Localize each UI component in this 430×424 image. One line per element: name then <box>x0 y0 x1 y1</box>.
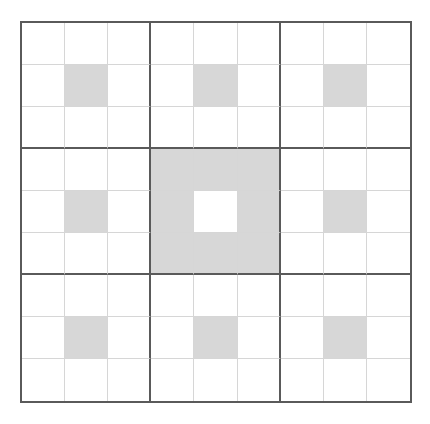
shaded-cell <box>151 191 194 233</box>
grid-cell <box>65 107 108 149</box>
shaded-cell <box>238 233 281 275</box>
grid-cell <box>367 317 410 359</box>
grid-cell <box>281 359 324 401</box>
grid-cell <box>108 233 151 275</box>
grid-cell <box>324 359 367 401</box>
grid-cell <box>22 275 65 317</box>
shaded-cell <box>194 65 237 107</box>
grid-cell <box>108 191 151 233</box>
grid-cell <box>281 275 324 317</box>
grid-cell <box>367 149 410 191</box>
grid-cell <box>194 107 237 149</box>
grid-cell <box>238 317 281 359</box>
grid-cell <box>22 149 65 191</box>
grid-cell <box>108 359 151 401</box>
shaded-cell <box>324 65 367 107</box>
shaded-cell <box>194 317 237 359</box>
grid-cell <box>65 275 108 317</box>
grid-cell <box>367 65 410 107</box>
grid-cell <box>367 23 410 65</box>
grid-cell <box>367 107 410 149</box>
shaded-cell <box>194 233 237 275</box>
shaded-cell <box>151 233 194 275</box>
shaded-cell <box>65 191 108 233</box>
grid-cell <box>324 149 367 191</box>
grid-cell <box>324 275 367 317</box>
grid-cell <box>108 107 151 149</box>
grid-cell <box>281 23 324 65</box>
grid-cell <box>65 149 108 191</box>
grid-cell <box>65 23 108 65</box>
diagram-canvas <box>0 0 430 424</box>
grid-cell <box>324 233 367 275</box>
grid-cell <box>22 359 65 401</box>
shaded-cell <box>65 317 108 359</box>
grid-cell <box>281 107 324 149</box>
grid-cell <box>194 23 237 65</box>
grid-cell <box>108 317 151 359</box>
shaded-cell <box>324 191 367 233</box>
grid-cell <box>151 107 194 149</box>
grid-cell <box>194 275 237 317</box>
sudoku-grid <box>20 21 412 403</box>
grid-cell <box>22 317 65 359</box>
grid-cell <box>108 65 151 107</box>
grid-cell <box>194 191 237 233</box>
grid-cell <box>367 233 410 275</box>
grid-cell <box>151 359 194 401</box>
grid-cell <box>151 65 194 107</box>
grid-cell <box>281 191 324 233</box>
grid-cell <box>281 317 324 359</box>
grid-cell <box>281 65 324 107</box>
shaded-cell <box>65 65 108 107</box>
grid-cell <box>151 317 194 359</box>
grid-cell <box>151 23 194 65</box>
grid-cell <box>22 233 65 275</box>
grid-cell <box>367 275 410 317</box>
grid-cell <box>108 275 151 317</box>
grid-cell <box>367 191 410 233</box>
grid-cell <box>367 359 410 401</box>
grid-cell <box>22 107 65 149</box>
grid-cell <box>108 23 151 65</box>
grid-cell <box>281 233 324 275</box>
grid-cell <box>324 23 367 65</box>
grid-cell <box>194 359 237 401</box>
shaded-cell <box>238 149 281 191</box>
grid-cell <box>22 65 65 107</box>
grid-cell <box>151 275 194 317</box>
grid-cell <box>324 107 367 149</box>
grid-cell <box>108 149 151 191</box>
grid-cell <box>238 107 281 149</box>
grid-cell <box>238 275 281 317</box>
grid-cell <box>22 191 65 233</box>
grid-cell <box>65 359 108 401</box>
grid-cell <box>281 149 324 191</box>
grid-cell <box>65 233 108 275</box>
shaded-cell <box>194 149 237 191</box>
shaded-cell <box>151 149 194 191</box>
grid-cell <box>22 23 65 65</box>
grid-cell <box>238 23 281 65</box>
grid-cell <box>238 359 281 401</box>
grid-cell <box>238 65 281 107</box>
shaded-cell <box>238 191 281 233</box>
shaded-cell <box>324 317 367 359</box>
